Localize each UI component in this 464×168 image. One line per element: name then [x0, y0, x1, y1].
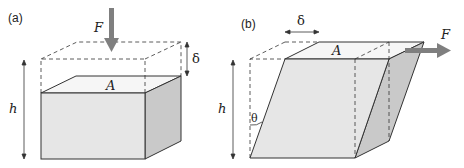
- panel-b-angle-label: θ: [251, 113, 258, 124]
- panel-a-force-label: F: [94, 21, 103, 34]
- panel-b-label: (b): [241, 18, 256, 30]
- panel-b-delta-arrow: [285, 30, 319, 34]
- panel-b-delta-label: δ: [297, 14, 305, 27]
- panel-a-force-arrow: [104, 8, 119, 52]
- panel-b-force-label: F: [441, 28, 450, 41]
- panel-a-delta-arrow: [185, 42, 189, 76]
- panel-b-height-arrow: [231, 60, 235, 159]
- panel-a-area-label: A: [106, 79, 115, 92]
- figure: (a) F A h δ (b) δ A F h θ: [0, 0, 464, 168]
- panel-a-height-arrow: [22, 60, 26, 159]
- panel-a-label: (a): [8, 12, 23, 24]
- panel-a-delta-label: δ: [192, 52, 200, 65]
- panel-b-block: [250, 42, 424, 158]
- panel-b-height-label: h: [218, 102, 226, 115]
- panel-b-area-label: A: [332, 44, 341, 57]
- diagram-canvas: [0, 0, 464, 168]
- panel-a-height-label: h: [9, 102, 17, 115]
